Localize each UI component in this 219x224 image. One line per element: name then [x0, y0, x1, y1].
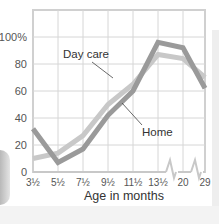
y-tick-label: 80 — [15, 58, 27, 70]
x-tick-label: 3½ — [26, 177, 41, 188]
x-tick-label: 9½ — [101, 177, 116, 188]
y-axis-labels: 020406080100% — [0, 31, 27, 178]
annotation-home: Home — [142, 126, 173, 138]
line-chart: 020406080100% 3½5½7½9½11½13½2029 Day car… — [0, 0, 219, 224]
y-tick-label: 20 — [15, 139, 27, 151]
y-tick-label: 60 — [15, 85, 27, 97]
x-axis-title: Age in months — [84, 189, 164, 203]
annotation-day-care: Day care — [63, 48, 109, 60]
x-tick-label: 20 — [177, 177, 189, 188]
x-tick-label: 7½ — [76, 177, 91, 188]
y-tick-label: 40 — [15, 112, 27, 124]
grid — [33, 10, 205, 172]
x-tick-label: 11½ — [124, 177, 143, 188]
x-tick-label: 13½ — [148, 177, 168, 188]
x-tick-label: 5½ — [51, 177, 66, 188]
x-tick-label: 29 — [199, 177, 211, 188]
y-tick-label: 100% — [0, 31, 27, 43]
x-axis-labels: 3½5½7½9½11½13½2029 — [26, 177, 211, 188]
